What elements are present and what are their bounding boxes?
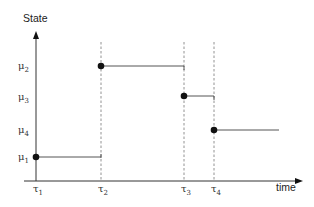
svg-text:τ1: τ1	[33, 183, 43, 197]
point-mu3	[181, 93, 188, 100]
point-mu1	[33, 154, 40, 161]
svg-text:μ4: μ4	[18, 124, 30, 138]
y-tick-mu4: μ4	[18, 124, 30, 138]
x-axis-arrow-icon	[295, 178, 303, 184]
y-tick-mu1: μ1	[18, 151, 29, 165]
x-tick-tau1: τ1	[33, 183, 43, 197]
x-axis-label: time	[276, 181, 296, 193]
y-axis-arrow-icon	[33, 31, 39, 39]
svg-text:τ2: τ2	[98, 183, 108, 197]
svg-text:τ3: τ3	[181, 183, 191, 197]
svg-text:τ4: τ4	[211, 183, 222, 197]
svg-text:μ2: μ2	[18, 60, 29, 74]
y-axis-label: State	[23, 12, 48, 24]
svg-text:μ1: μ1	[18, 151, 29, 165]
y-tick-mu3: μ3	[18, 91, 29, 105]
x-tick-tau3: τ3	[181, 183, 191, 197]
x-tick-tau2: τ2	[98, 183, 108, 197]
point-mu4	[211, 127, 218, 134]
step-function-diagram: State time μ2 μ3 μ4 μ1 τ1 τ2 τ3 τ4	[0, 0, 314, 207]
svg-text:μ3: μ3	[18, 91, 29, 105]
point-mu2	[98, 63, 105, 70]
x-tick-tau4: τ4	[211, 183, 222, 197]
y-tick-mu2: μ2	[18, 60, 29, 74]
